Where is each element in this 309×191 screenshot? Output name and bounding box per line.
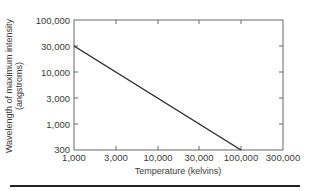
x-tick-label: 1,000: [62, 152, 86, 163]
chart: 100,000 30,000 10,000 3,000 1,000 300 1,…: [0, 0, 309, 191]
bottom-rule: [10, 185, 300, 187]
y-tick-label: 100,000: [36, 15, 70, 26]
plot-frame: [74, 20, 283, 150]
x-axis-title: Temperature (kelvins): [135, 166, 222, 176]
x-axis: [116, 20, 241, 150]
y-axis: [74, 46, 283, 124]
y-tick-label: 1,000: [46, 119, 70, 130]
x-tick-labels: 1,000 3,000 10,000 30,000 100,000 300,00…: [62, 152, 300, 163]
y-tick-labels: 100,000 30,000 10,000 3,000 1,000 300: [36, 15, 70, 156]
x-tick-label: 10,000: [143, 152, 172, 163]
y-tick-label: 10,000: [41, 67, 70, 78]
y-axis-title: Wavelength of maximum intensity (angstro…: [4, 18, 24, 153]
x-tick-label: 30,000: [184, 152, 213, 163]
y-tick-label: 3,000: [46, 93, 70, 104]
x-tick-label: 3,000: [104, 152, 128, 163]
x-tick-label: 100,000: [224, 152, 258, 163]
x-tick-label: 300,000: [266, 152, 300, 163]
data-line: [74, 46, 241, 150]
y-axis-title-line2: (angstroms): [14, 62, 24, 110]
y-axis-title-line1: Wavelength of maximum intensity: [4, 18, 14, 153]
y-tick-label: 30,000: [41, 41, 70, 52]
